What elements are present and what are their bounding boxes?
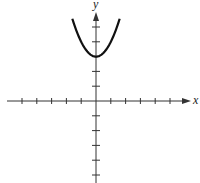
y-axis-arrow-icon: [93, 12, 99, 21]
x-axis-arrow-icon: [182, 98, 191, 104]
axes: [7, 12, 191, 183]
coordinate-plane: [0, 0, 200, 183]
y-axis-label: y: [93, 0, 98, 10]
x-axis-label: x: [193, 94, 198, 106]
